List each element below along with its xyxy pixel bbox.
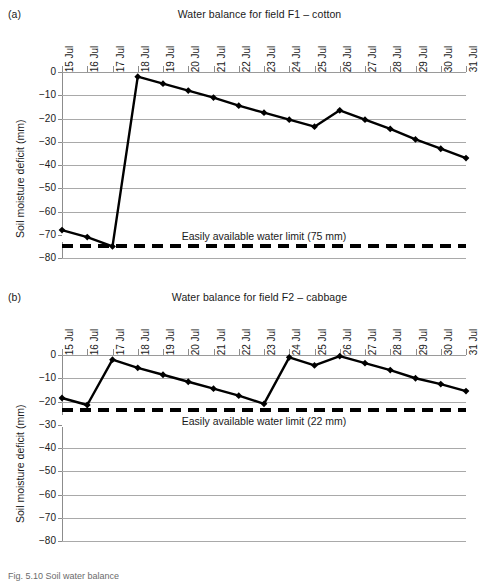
x-tick-label: 30 Jul — [444, 329, 454, 356]
y-tick-label: −70 — [39, 230, 56, 240]
x-tick-label: 26 Jul — [343, 46, 353, 73]
x-tick-label: 27 Jul — [368, 46, 378, 73]
x-tick-label: 24 Jul — [293, 46, 303, 73]
plot-area-b: 0−10−20−30−40−50−60−70−8015 Jul16 Jul17 … — [62, 355, 466, 541]
x-tick-label: 28 Jul — [394, 46, 404, 73]
x-tick-label: 20 Jul — [192, 329, 202, 356]
data-point-marker — [286, 116, 293, 123]
data-point-marker — [463, 388, 470, 395]
x-tick-label: 28 Jul — [394, 329, 404, 356]
data-point-marker — [362, 116, 369, 123]
x-tick-label: 16 Jul — [91, 46, 101, 73]
data-point-marker — [362, 360, 369, 367]
data-point-marker — [437, 145, 444, 152]
x-tick-label: 17 Jul — [116, 46, 126, 73]
data-point-marker — [84, 234, 91, 241]
data-point-marker — [185, 87, 192, 94]
data-point-marker — [134, 73, 141, 80]
x-tick-label: 25 Jul — [318, 329, 328, 356]
x-tick-label: 27 Jul — [368, 329, 378, 356]
data-point-marker — [412, 136, 419, 143]
data-point-marker — [387, 367, 394, 374]
y-axis-title-a: Soil moisture deficit (mm) — [14, 120, 26, 238]
data-point-marker — [160, 80, 167, 87]
data-point-marker — [235, 102, 242, 109]
y-tick-label: −40 — [39, 443, 56, 453]
series-line — [62, 77, 466, 247]
x-tick-label: 26 Jul — [343, 329, 353, 356]
y-tick-label: −30 — [39, 137, 56, 147]
x-tick-label: 16 Jul — [91, 329, 101, 356]
chart-panel-b: (b) Water balance for field F2 – cabbage… — [0, 283, 483, 567]
y-tick-label: −80 — [39, 536, 56, 546]
y-tick-label: −60 — [39, 490, 56, 500]
x-tick-label: 24 Jul — [293, 329, 303, 356]
gridline — [62, 258, 466, 259]
data-point-marker — [160, 371, 167, 378]
data-point-marker — [134, 364, 141, 371]
data-point-marker — [311, 362, 318, 369]
x-tick-label: 23 Jul — [267, 46, 277, 73]
y-tick-mark — [58, 258, 62, 259]
y-tick-label: −30 — [39, 420, 56, 430]
y-tick-label: −10 — [39, 373, 56, 383]
data-point-marker — [261, 109, 268, 116]
y-tick-label: −10 — [39, 90, 56, 100]
y-tick-label: 0 — [50, 350, 56, 360]
y-tick-mark — [58, 541, 62, 542]
y-tick-label: −70 — [39, 513, 56, 523]
x-tick-label: 18 Jul — [141, 46, 151, 73]
figure-caption: Fig. 5.10 Soil water balance — [8, 571, 119, 581]
plot-area-a: 0−10−20−30−40−50−60−70−8015 Jul16 Jul17 … — [62, 72, 466, 258]
x-tick-mark — [466, 66, 467, 72]
data-point-marker — [412, 375, 419, 382]
data-point-marker — [235, 392, 242, 399]
data-point-marker — [437, 381, 444, 388]
x-tick-label: 19 Jul — [166, 46, 176, 73]
x-tick-label: 15 Jul — [65, 46, 75, 73]
x-tick-mark — [466, 349, 467, 355]
data-point-marker — [210, 94, 217, 101]
x-tick-label: 25 Jul — [318, 46, 328, 73]
x-tick-label: 20 Jul — [192, 46, 202, 73]
y-tick-label: −50 — [39, 466, 56, 476]
data-point-marker — [463, 155, 470, 162]
y-tick-label: −20 — [39, 114, 56, 124]
data-point-marker — [109, 243, 116, 250]
y-tick-label: −50 — [39, 183, 56, 193]
x-tick-label: 29 Jul — [419, 46, 429, 73]
y-tick-label: −20 — [39, 397, 56, 407]
x-tick-label: 30 Jul — [444, 46, 454, 73]
x-tick-label: 17 Jul — [116, 329, 126, 356]
y-tick-label: 0 — [50, 67, 56, 77]
x-tick-label: 31 Jul — [469, 46, 479, 73]
y-tick-label: −60 — [39, 207, 56, 217]
series-layer — [62, 355, 466, 541]
y-tick-label: −80 — [39, 253, 56, 263]
x-tick-label: 18 Jul — [141, 329, 151, 356]
x-tick-label: 23 Jul — [267, 329, 277, 356]
gridline — [62, 541, 466, 542]
x-tick-label: 22 Jul — [242, 329, 252, 356]
series-layer — [62, 72, 466, 258]
data-point-marker — [387, 126, 394, 133]
data-point-marker — [59, 227, 66, 234]
y-tick-label: −40 — [39, 160, 56, 170]
x-tick-label: 19 Jul — [166, 329, 176, 356]
series-line — [62, 356, 466, 405]
data-point-marker — [59, 395, 66, 402]
data-point-marker — [210, 385, 217, 392]
x-tick-label: 22 Jul — [242, 46, 252, 73]
x-tick-label: 29 Jul — [419, 329, 429, 356]
data-point-marker — [185, 378, 192, 385]
chart-panel-a: (a) Water balance for field F1 – cotton … — [0, 0, 483, 285]
x-tick-label: 21 Jul — [217, 329, 227, 356]
x-tick-label: 31 Jul — [469, 329, 479, 356]
y-axis-title-b: Soil moisture deficit (mm) — [14, 405, 26, 523]
chart-title-a: Water balance for field F1 – cotton — [0, 8, 483, 20]
x-tick-label: 15 Jul — [65, 329, 75, 356]
x-tick-label: 21 Jul — [217, 46, 227, 73]
chart-title-b: Water balance for field F2 – cabbage — [0, 291, 483, 303]
